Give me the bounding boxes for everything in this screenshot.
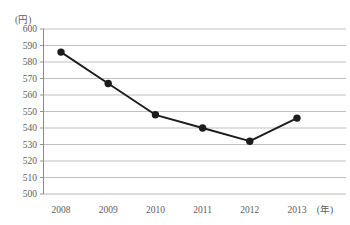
y-tick-label: 570 (23, 74, 38, 84)
line-chart: (円) 600590580570560550540530520510500 20… (0, 0, 350, 225)
x-axis-unit-label: (年) (317, 204, 333, 216)
x-tick-label: 2010 (146, 205, 165, 215)
data-point-marker (57, 48, 64, 55)
y-tick-label: 520 (23, 156, 38, 166)
data-point-marker (152, 111, 159, 118)
y-tick-label: 530 (23, 140, 38, 150)
x-tick-label: 2009 (99, 205, 118, 215)
data-point-marker (199, 124, 206, 131)
data-point-marker (293, 114, 300, 121)
x-tick-label: 2012 (240, 205, 259, 215)
y-tick-label: 580 (23, 57, 38, 67)
chart-background (0, 0, 350, 225)
data-point-marker (105, 80, 112, 87)
y-tick-labels-group: 600590580570560550540530520510500 (23, 24, 38, 199)
chart-canvas: (円) 600590580570560550540530520510500 20… (0, 0, 350, 225)
y-tick-label: 510 (23, 173, 38, 183)
y-tick-label: 590 (23, 41, 38, 51)
y-tick-label: 500 (23, 189, 38, 199)
x-tick-label: 2011 (193, 205, 212, 215)
y-tick-label: 600 (23, 24, 38, 34)
y-tick-label: 560 (23, 90, 38, 100)
y-tick-label: 540 (23, 123, 38, 133)
x-tick-label: 2013 (288, 205, 307, 215)
x-tick-label: 2008 (52, 205, 71, 215)
data-point-marker (246, 138, 253, 145)
y-tick-label: 550 (23, 107, 38, 117)
